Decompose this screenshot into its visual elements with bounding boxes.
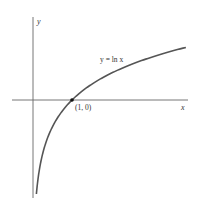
point-label: (1, 0) [75, 103, 92, 112]
x-axis-label: x [180, 103, 185, 112]
point-1-0 [70, 98, 74, 102]
ln-curve [36, 47, 185, 194]
ln-chart: y x y = ln x (1, 0) [0, 0, 200, 208]
y-axis-label: y [36, 17, 41, 26]
curve-label: y = ln x [100, 55, 123, 64]
